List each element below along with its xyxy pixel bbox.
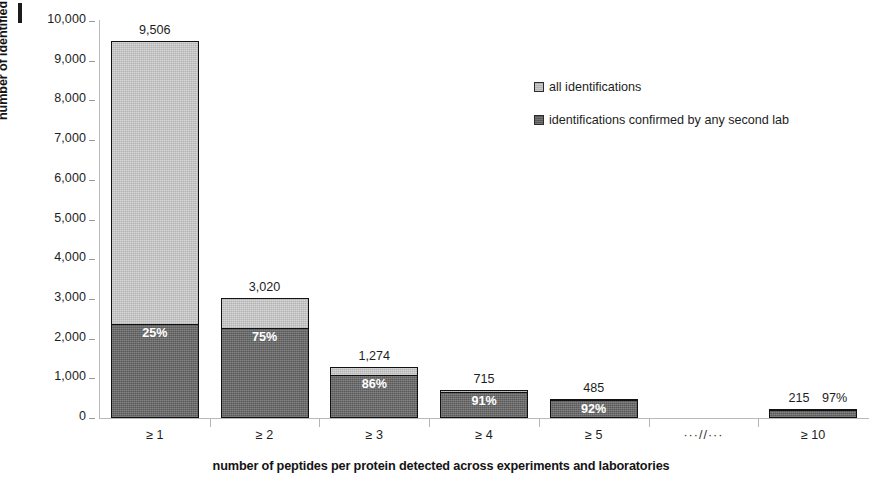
legend-swatch-light-icon xyxy=(534,82,544,92)
x-tick-label: ≥ 10 xyxy=(758,428,868,442)
y-tick-label: 6,000 xyxy=(54,171,86,185)
y-tick-mark xyxy=(89,259,95,260)
bar-percent-label: 75% xyxy=(221,330,309,344)
bar-percent-label: 91% xyxy=(440,394,528,408)
bar-total-label: 715 xyxy=(473,372,494,386)
y-tick-label: 3,000 xyxy=(54,290,86,304)
bar-group[interactable]: 1,27486% xyxy=(330,367,418,418)
bar-group[interactable]: 9,50625% xyxy=(111,41,199,418)
bar-percent-label: 25% xyxy=(111,326,199,340)
x-axis-separator xyxy=(319,419,320,427)
y-tick-label: 0 xyxy=(79,409,86,423)
y-tick-mark xyxy=(89,418,95,419)
legend-swatch-dark-icon xyxy=(534,115,544,125)
x-tick-label: ≥ 3 xyxy=(319,428,429,442)
x-axis-separator xyxy=(210,419,211,427)
axis-break-marker: ···//··· xyxy=(649,428,759,442)
y-tick-label: 5,000 xyxy=(54,211,86,225)
y-tick-label: 1,000 xyxy=(54,369,86,383)
x-tick-label: ≥ 2 xyxy=(210,428,320,442)
x-axis-title: number of peptides per protein detected … xyxy=(0,459,882,473)
x-tick-label: ≥ 1 xyxy=(100,428,210,442)
y-tick-label: 4,000 xyxy=(54,250,86,264)
y-tick-label: 9,000 xyxy=(54,52,86,66)
x-tick-label: ≥ 5 xyxy=(539,428,649,442)
legend-item-confirmed-second-lab: identifications confirmed by any second … xyxy=(534,113,864,126)
x-axis-separator xyxy=(758,419,759,427)
bar-group[interactable]: 71591% xyxy=(440,390,528,418)
bar-total-label: 3,020 xyxy=(249,280,281,294)
y-tick-label: 2,000 xyxy=(54,330,86,344)
x-axis-separator xyxy=(539,419,540,427)
y-tick-mark xyxy=(89,140,95,141)
bar-total-label: 485 xyxy=(583,381,604,395)
y-tick-mark xyxy=(89,21,95,22)
bar-total-label: 215 xyxy=(789,391,810,405)
y-tick-label: 8,000 xyxy=(54,91,86,105)
x-axis-separator xyxy=(649,419,650,427)
legend-item-all-identifications: all identifications xyxy=(534,80,864,93)
bar-group[interactable]: 48592% xyxy=(550,399,638,418)
bar-percent-label: 86% xyxy=(330,377,418,391)
y-tick-mark xyxy=(89,61,95,62)
y-tick-mark xyxy=(89,299,95,300)
chart-legend: all identifications identifications conf… xyxy=(534,80,864,146)
bar-percent-label: 92% xyxy=(550,402,638,416)
y-tick-label: 7,000 xyxy=(54,131,86,145)
x-axis-separator xyxy=(429,419,430,427)
y-tick-mark xyxy=(89,100,95,101)
legend-label: identifications confirmed by any second … xyxy=(549,113,789,127)
bar-group[interactable]: 3,02075% xyxy=(221,298,309,418)
y-tick-mark xyxy=(89,378,95,379)
bar-percent-label: 97% xyxy=(822,391,847,405)
y-axis-title: number of identified proteins xyxy=(0,0,10,120)
x-tick-label: ≥ 4 xyxy=(429,428,539,442)
bar-total-label: 1,274 xyxy=(359,349,391,363)
bar-chart-figure: number of identified proteins 10,0009,00… xyxy=(0,0,882,497)
x-axis-line xyxy=(99,418,869,419)
y-tick-mark xyxy=(89,220,95,221)
bar-total-label: 9,506 xyxy=(139,23,171,37)
legend-label: all identifications xyxy=(549,80,641,94)
y-tick-mark xyxy=(89,339,95,340)
bar-segment-confirmed[interactable] xyxy=(769,410,857,418)
bar-group[interactable]: 21597% xyxy=(769,409,857,418)
y-tick-label: 10,000 xyxy=(47,12,86,26)
y-tick-mark xyxy=(89,180,95,181)
